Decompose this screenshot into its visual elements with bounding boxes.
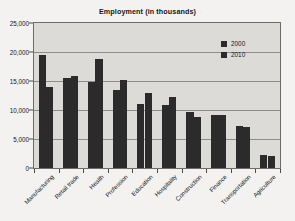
legend-entry[interactable]: 2010 bbox=[221, 49, 277, 60]
bar bbox=[236, 126, 243, 168]
bar bbox=[46, 87, 53, 168]
legend-swatch-icon bbox=[221, 52, 227, 58]
bar bbox=[39, 55, 46, 168]
legend-entry[interactable]: 2000 bbox=[221, 38, 277, 49]
bar-group bbox=[162, 23, 177, 168]
legend-label: 2010 bbox=[231, 51, 245, 58]
x-axis-category-label: Health bbox=[87, 173, 104, 190]
bar bbox=[186, 112, 193, 168]
bar bbox=[88, 82, 95, 168]
bar bbox=[194, 117, 201, 168]
x-axis-category-label: Hospitality bbox=[153, 173, 178, 198]
x-axis-category-label: Profession bbox=[104, 173, 129, 198]
bar bbox=[137, 104, 144, 168]
bar-group bbox=[39, 23, 54, 168]
bar bbox=[268, 156, 275, 168]
legend-swatch-icon bbox=[221, 41, 227, 47]
x-axis-category-label: Finance bbox=[207, 173, 227, 193]
x-axis-category-label: Agriculture bbox=[251, 173, 277, 199]
bar bbox=[243, 127, 250, 168]
bar bbox=[218, 115, 225, 168]
bar-group bbox=[63, 23, 78, 168]
bar bbox=[260, 155, 267, 168]
x-axis-category-label: Retail trade bbox=[53, 173, 80, 200]
bar bbox=[120, 80, 127, 168]
bar-group bbox=[186, 23, 201, 168]
bar bbox=[145, 93, 152, 168]
employment-bar-chart: Employment (in thousands) 05,00010,00015… bbox=[0, 0, 295, 221]
bar bbox=[169, 97, 176, 168]
bar-group bbox=[88, 23, 103, 168]
bar bbox=[113, 90, 120, 168]
x-axis-category-label: Education bbox=[130, 173, 154, 197]
bar bbox=[71, 76, 78, 168]
bar bbox=[211, 115, 218, 168]
chart-legend: 20002010 bbox=[221, 38, 277, 60]
bar-group bbox=[112, 23, 127, 168]
bar-group bbox=[137, 23, 152, 168]
x-axis-category-label: Manufacturing bbox=[23, 173, 55, 205]
x-axis-labels: ManufacturingRetail tradeHealthProfessio… bbox=[33, 173, 281, 221]
bar bbox=[63, 78, 70, 168]
chart-title: Employment (in thousands) bbox=[0, 7, 295, 16]
legend-label: 2000 bbox=[231, 40, 245, 47]
bar bbox=[162, 105, 169, 168]
bar bbox=[95, 59, 102, 168]
